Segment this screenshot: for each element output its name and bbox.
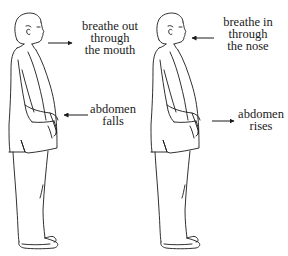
label-breathe-out: breathe out through the mouth [78, 20, 142, 56]
person-illustration-right [151, 13, 200, 249]
label-line: falls [90, 115, 136, 127]
label-line: the mouth [78, 44, 142, 56]
label-abdomen-falls: abdomen falls [90, 103, 136, 127]
label-abdomen-rises: abdomen rises [238, 108, 284, 132]
label-line: the nose [218, 40, 278, 52]
label-breathe-in: breathe in through the nose [218, 16, 278, 52]
person-illustration-left [9, 13, 58, 249]
label-line: rises [238, 120, 284, 132]
figure-exhale [9, 13, 88, 249]
